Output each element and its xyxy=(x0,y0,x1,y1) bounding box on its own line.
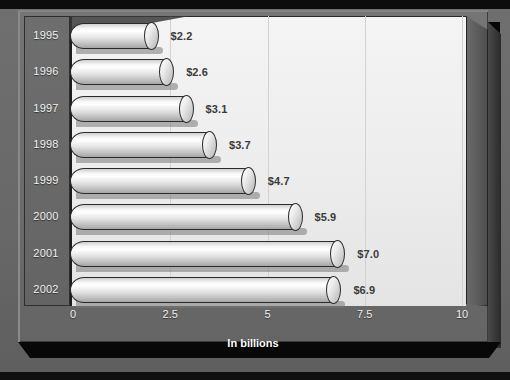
x-tick-5: 5 xyxy=(254,308,282,320)
bar-value-label: $6.9 xyxy=(353,284,375,296)
bar-end-cap xyxy=(179,95,194,123)
bar-end-cap xyxy=(326,276,341,304)
bar[interactable] xyxy=(70,168,256,194)
category-label-1996: 1996 xyxy=(24,65,68,77)
category-label-1995: 1995 xyxy=(24,29,68,41)
top-dark-band xyxy=(0,0,510,9)
bar-body xyxy=(70,96,187,122)
bar[interactable] xyxy=(70,204,303,230)
chart-screenshot: 19951996199719981999200020012002 $2.2$2.… xyxy=(0,0,510,380)
x-tick-2.5: 2.5 xyxy=(156,308,184,320)
x-tick-7.5: 7.5 xyxy=(351,308,379,320)
bar-body xyxy=(70,168,249,194)
bar-body xyxy=(70,204,296,230)
category-label-1997: 1997 xyxy=(24,102,68,114)
category-label-1998: 1998 xyxy=(24,138,68,150)
bar-value-label: $4.7 xyxy=(268,175,290,187)
bar[interactable] xyxy=(70,277,341,303)
chart-frame-bevel-left xyxy=(18,10,20,342)
bar-body xyxy=(70,241,338,267)
chart-frame-right-3d-face xyxy=(488,22,501,348)
category-label-1999: 1999 xyxy=(24,174,68,186)
x-tick-10: 10 xyxy=(448,308,476,320)
bottom-dark-band xyxy=(0,372,510,380)
category-axis-panel xyxy=(24,16,70,306)
plot-right-wall xyxy=(466,16,488,306)
bar-end-cap xyxy=(330,240,345,268)
category-label-2000: 2000 xyxy=(24,210,68,222)
bar-value-label: $2.6 xyxy=(186,66,208,78)
bar-end-cap xyxy=(144,22,159,50)
bar-value-label: $3.1 xyxy=(206,103,228,115)
bar-body xyxy=(70,59,167,85)
x-tick-0: 0 xyxy=(59,308,87,320)
bar[interactable] xyxy=(70,23,159,49)
bar-end-cap xyxy=(202,131,217,159)
chart-frame-bottom-3d-face xyxy=(18,342,501,358)
chart-frame-bevel-top xyxy=(18,10,488,12)
bar-body xyxy=(70,132,210,158)
bar[interactable] xyxy=(70,132,217,158)
category-label-2002: 2002 xyxy=(24,283,68,295)
bar-body xyxy=(70,277,334,303)
gridline xyxy=(365,16,366,306)
plot-area xyxy=(70,16,466,306)
bar-body xyxy=(70,23,152,49)
gridline xyxy=(462,16,463,306)
bar[interactable] xyxy=(70,59,174,85)
bar-value-label: $7.0 xyxy=(357,248,379,260)
bar-end-cap xyxy=(288,203,303,231)
bar[interactable] xyxy=(70,96,194,122)
bar-value-label: $2.2 xyxy=(171,30,193,42)
bar-value-label: $3.7 xyxy=(229,139,251,151)
category-label-2001: 2001 xyxy=(24,247,68,259)
bar-value-label: $5.9 xyxy=(315,211,337,223)
bar-end-cap xyxy=(241,167,256,195)
bar-end-cap xyxy=(159,58,174,86)
bar[interactable] xyxy=(70,241,345,267)
